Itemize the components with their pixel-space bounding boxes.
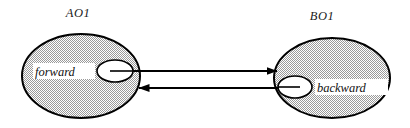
diagram-canvas: forward backward AO1 BO1 xyxy=(0,0,410,128)
node-b-title: BO1 xyxy=(310,9,335,23)
node-a-title: AO1 xyxy=(65,6,91,20)
node-b-port-label: backward xyxy=(317,81,367,95)
node-a-port-label: forward xyxy=(35,65,76,79)
diagram-svg: forward backward AO1 BO1 xyxy=(0,0,410,128)
node-b-port-label-group: backward xyxy=(315,79,388,95)
node-a-port-label-group: forward xyxy=(33,63,95,79)
